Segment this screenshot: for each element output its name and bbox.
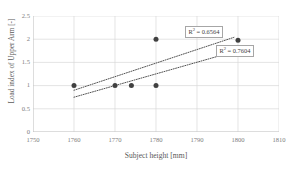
x-axis-tick-label: 1750: [16, 137, 50, 144]
data-point: [236, 38, 241, 43]
y-axis-tick-label: 2: [8, 36, 30, 43]
y-axis-tick-label: 0: [8, 129, 30, 136]
x-axis-tick-label: 1760: [57, 137, 91, 144]
r2-upper-value: = 0.6564: [195, 28, 219, 35]
r-squared-label-lower: R2 = 0.7604: [216, 45, 254, 57]
upper-trendline: [74, 37, 234, 90]
x-axis-tick-label: 1770: [98, 137, 132, 144]
x-axis-tick-label: 1800: [221, 137, 255, 144]
y-axis-tick-label: 1: [8, 82, 30, 89]
y-axis-tick-label: 1.5: [8, 59, 30, 66]
r-squared-label-upper: R2 = 0.6564: [185, 26, 223, 38]
x-axis-tick-label: 1780: [139, 137, 173, 144]
x-axis-title: Subject height [mm]: [36, 151, 276, 160]
data-point: [72, 83, 77, 88]
y-axis-tick-label: 0.5: [8, 106, 30, 113]
data-point: [113, 83, 118, 88]
x-axis-tick-labels: 1750176017701780179018001810: [0, 137, 289, 149]
y-axis-tick-label: 2.5: [8, 13, 30, 20]
data-point: [129, 83, 134, 88]
data-point: [154, 37, 159, 42]
data-point: [154, 83, 159, 88]
plot-area: [33, 16, 279, 132]
x-axis-tick-label: 1810: [262, 137, 289, 144]
plot-svg: [33, 16, 279, 132]
r2-lower-value: = 0.7604: [226, 47, 250, 54]
x-axis-tick-label: 1790: [180, 137, 214, 144]
scatter-chart: Load index of Upper Arm [-] 00.511.522.5…: [0, 0, 289, 169]
